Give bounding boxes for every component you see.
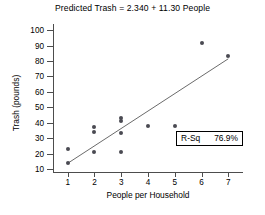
x-tick-mark [121, 172, 122, 177]
data-point [146, 124, 150, 128]
x-tick-mark [94, 172, 95, 177]
x-tick-label: 3 [119, 178, 124, 187]
x-tick-mark [228, 172, 229, 177]
x-tick-label: 4 [146, 178, 151, 187]
plot-area [53, 24, 243, 172]
x-tick-mark [202, 172, 203, 177]
y-tick-label: 70 [35, 72, 44, 81]
r-squared-annotation: R-Sq 76.9% [176, 131, 243, 146]
regression-line [53, 24, 243, 172]
x-tick-label: 5 [172, 178, 177, 187]
data-point [66, 161, 70, 165]
x-tick-mark [175, 172, 176, 177]
x-tick-mark [68, 172, 69, 177]
x-tick-label: 2 [92, 178, 97, 187]
y-tick-label: 30 [35, 134, 44, 143]
x-tick-label: 6 [199, 178, 204, 187]
chart-title: Predicted Trash = 2.340 + 11.30 People [0, 3, 265, 13]
y-axis-title: Trash (pounds) [11, 43, 21, 163]
data-point [200, 41, 204, 45]
y-tick-label: 10 [35, 164, 44, 173]
y-tick-label: 100 [30, 26, 44, 35]
data-point [66, 147, 70, 151]
x-axis-title: People per Household [53, 190, 243, 200]
scatter-chart: Predicted Trash = 2.340 + 11.30 People 1… [0, 0, 265, 215]
y-tick-label: 80 [35, 57, 44, 66]
r-squared-label: R-Sq [181, 133, 200, 143]
y-tick-label: 40 [35, 118, 44, 127]
x-tick-mark [148, 172, 149, 177]
y-tick-label: 50 [35, 103, 44, 112]
r-squared-value: 76.9% [214, 133, 238, 143]
x-tick-label: 7 [226, 178, 231, 187]
y-tick-label: 90 [35, 41, 44, 50]
y-tick-label: 20 [35, 149, 44, 158]
data-point [173, 124, 177, 128]
x-tick-label: 1 [65, 178, 70, 187]
y-tick-label: 60 [35, 87, 44, 96]
